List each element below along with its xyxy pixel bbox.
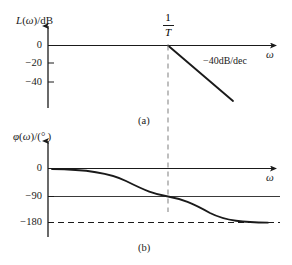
- top-plot-axes: [48, 26, 276, 108]
- top-plot-y-axis-title: L(ω)/dB: [16, 15, 53, 26]
- top-plot-x-axis-label: ω: [266, 49, 274, 60]
- caption-b: (b): [138, 243, 150, 254]
- bottom-plot-y-axis-title: φ(ω)/(° ): [13, 131, 51, 142]
- magnitude-asymptote-line: [168, 46, 233, 102]
- bottom-tick-label-minus90: −90: [14, 191, 42, 202]
- corner-frequency-denominator: T: [157, 27, 179, 39]
- slope-label: −40dB/dec: [203, 56, 247, 66]
- top-tick-label-minus20: −20: [14, 58, 42, 69]
- caption-a: (a): [138, 116, 150, 127]
- figure-container: L(ω)/dB 0 −20 −40 1 T −40dB/dec ω (a) φ(…: [0, 0, 292, 265]
- bottom-tick-label-0: 0: [22, 163, 42, 174]
- corner-frequency-label: 1 T: [157, 12, 179, 38]
- bottom-tick-label-minus180: −180: [8, 217, 42, 228]
- phase-curve: [52, 169, 268, 223]
- corner-frequency-numerator: 1: [157, 12, 179, 24]
- top-tick-label-minus40: −40: [14, 77, 42, 88]
- bottom-plot-x-axis-label: ω: [266, 172, 274, 183]
- top-tick-label-0: 0: [22, 40, 42, 51]
